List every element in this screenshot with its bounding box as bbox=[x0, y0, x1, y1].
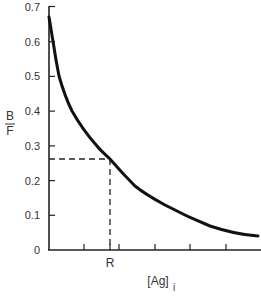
y-tick-label: 0.7 bbox=[25, 1, 40, 13]
y-tick-labels: 0 0.1 0.2 0.3 0.4 0.5 0.6 0.7 bbox=[25, 1, 40, 256]
y-label-denominator: F bbox=[6, 124, 13, 138]
y-tick-label: 0.6 bbox=[25, 36, 40, 48]
x-label-main: [Ag] bbox=[147, 274, 168, 288]
y-tick-label: 0.2 bbox=[25, 175, 40, 187]
y-tick-label: 0.4 bbox=[25, 105, 40, 117]
x-ticks bbox=[84, 244, 226, 250]
y-axis-label: B F bbox=[5, 109, 15, 138]
y-tick-label: 0 bbox=[34, 244, 40, 256]
y-tick-label: 0.5 bbox=[25, 70, 40, 82]
x-label-subscript: i bbox=[173, 282, 175, 293]
data-curve bbox=[49, 17, 258, 236]
x-axis-label: [Ag] i bbox=[147, 274, 175, 293]
y-ticks bbox=[49, 42, 55, 216]
y-label-numerator: B bbox=[6, 109, 14, 123]
chart: 0 0.1 0.2 0.3 0.4 0.5 0.6 0.7 B F R [Ag]… bbox=[0, 0, 261, 296]
x-tick-label-r: R bbox=[106, 256, 115, 270]
y-tick-label: 0.1 bbox=[25, 209, 40, 221]
y-tick-label: 0.3 bbox=[25, 140, 40, 152]
